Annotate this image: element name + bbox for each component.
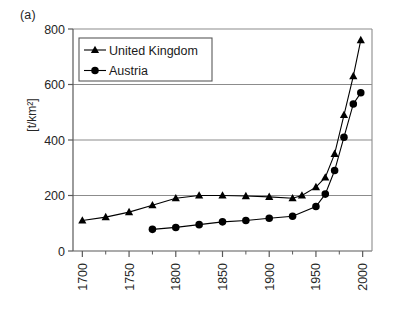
marker-circle xyxy=(265,214,273,222)
y-axis-ticks: 0200400600800 xyxy=(44,23,73,259)
marker-triangle xyxy=(340,111,348,118)
figure-panel-a: (a) [t/km²] 0200400600800 17001750180018… xyxy=(0,0,413,315)
marker-triangle xyxy=(195,191,203,198)
marker-circle xyxy=(340,133,348,141)
marker-triangle xyxy=(298,191,306,198)
marker-circle xyxy=(172,224,180,232)
marker-circle xyxy=(312,203,320,211)
marker-circle xyxy=(331,167,339,175)
y-tick-label: 400 xyxy=(44,134,65,148)
x-tick-label: 1850 xyxy=(216,263,230,291)
marker-circle xyxy=(149,226,157,234)
marker-circle xyxy=(322,190,330,198)
marker-triangle xyxy=(218,191,226,198)
marker-circle xyxy=(242,217,250,225)
marker-circle xyxy=(219,218,227,226)
x-tick-label: 1950 xyxy=(309,263,323,291)
marker-circle xyxy=(289,213,297,221)
y-tick-label: 200 xyxy=(44,189,65,203)
marker-circle xyxy=(195,221,203,229)
x-tick-label: 2000 xyxy=(356,263,370,291)
marker-circle xyxy=(350,100,358,108)
chart-legend: United KingdomAustria xyxy=(79,38,212,81)
x-tick-label: 1700 xyxy=(76,263,90,291)
chart-canvas: 0200400600800 17001750180018501900195020… xyxy=(0,0,413,315)
series-line xyxy=(152,93,360,230)
y-tick-label: 800 xyxy=(44,23,65,37)
marker-triangle xyxy=(357,36,365,43)
x-tick-label: 1750 xyxy=(123,263,137,291)
y-tick-label: 0 xyxy=(58,245,65,259)
marker-triangle xyxy=(321,173,329,180)
x-axis-ticks: 1700175018001850190019502000 xyxy=(76,251,370,291)
marker-triangle xyxy=(331,150,339,157)
legend-label: United Kingdom xyxy=(109,44,198,58)
x-tick-label: 1800 xyxy=(169,263,183,291)
x-tick-label: 1900 xyxy=(263,263,277,291)
legend-label: Austria xyxy=(109,64,148,78)
marker-circle xyxy=(91,67,99,75)
marker-triangle xyxy=(349,72,357,79)
marker-circle xyxy=(357,89,365,97)
y-tick-label: 600 xyxy=(44,78,65,92)
